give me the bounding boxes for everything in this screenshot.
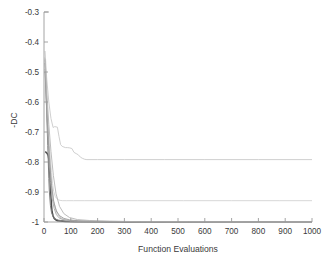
y-tick-label: -0.6 xyxy=(25,98,40,107)
x-tick-label: 1000 xyxy=(303,227,322,236)
y-tick-label: -1 xyxy=(32,218,40,227)
x-tick-label: 800 xyxy=(252,227,266,236)
x-tick-label: 0 xyxy=(42,227,47,236)
y-tick-label: -0.4 xyxy=(25,38,40,47)
x-axis-title: Function Evaluations xyxy=(138,244,218,254)
x-tick-label: 500 xyxy=(171,227,185,236)
y-tick-label: -0.8 xyxy=(25,158,40,167)
x-tick-label: 200 xyxy=(91,227,105,236)
y-tick-label: -0.9 xyxy=(25,188,40,197)
y-axis-title: -DC xyxy=(9,112,19,127)
x-tick-label: 600 xyxy=(198,227,212,236)
line-chart-canvas: -0.3-0.4-0.5-0.6-0.7-0.8-0.9-1 010020030… xyxy=(0,0,332,263)
x-tick-label: 900 xyxy=(278,227,292,236)
y-tick-label: -0.5 xyxy=(25,68,40,77)
y-tick-label: -0.7 xyxy=(25,128,40,137)
x-tick-label: 300 xyxy=(118,227,132,236)
x-tick-label: 700 xyxy=(225,227,239,236)
x-tick-label: 400 xyxy=(144,227,158,236)
chart-figure: -0.3-0.4-0.5-0.6-0.7-0.8-0.9-1 010020030… xyxy=(0,0,332,263)
plot-area-background xyxy=(44,12,312,222)
x-tick-label: 100 xyxy=(64,227,78,236)
y-tick-label: -0.3 xyxy=(25,8,40,17)
